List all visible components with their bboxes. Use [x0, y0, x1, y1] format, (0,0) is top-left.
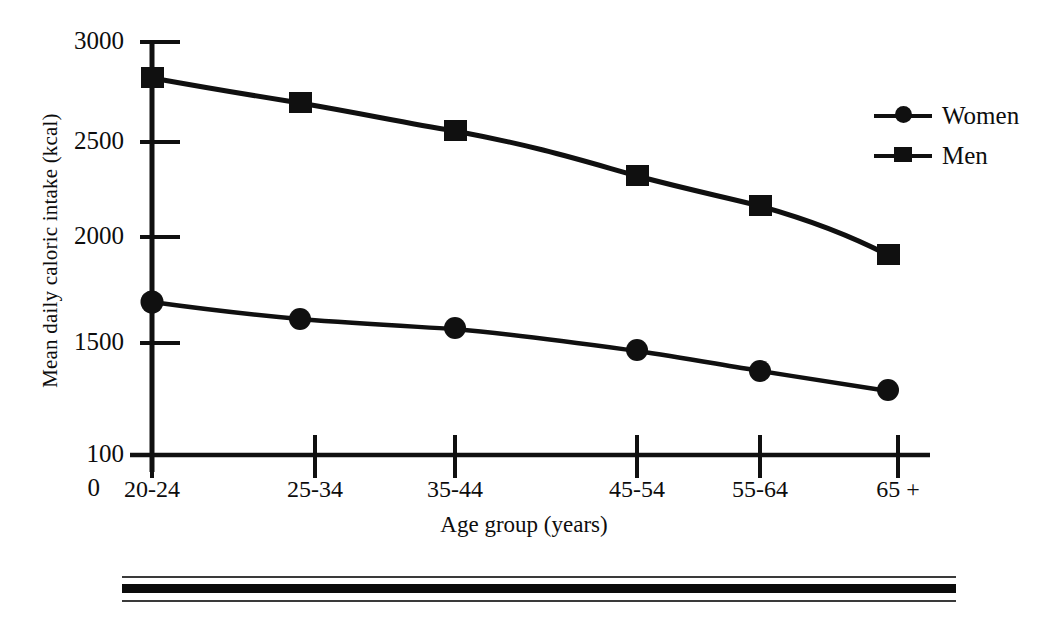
legend-label-women: Women: [934, 102, 1019, 130]
data-point-men-45-54: [626, 165, 649, 186]
data-point-women-65plus: [877, 379, 899, 401]
legend-label-men: Men: [934, 142, 988, 170]
legend-marker-circle-icon: [872, 104, 934, 128]
data-point-women-45-54: [626, 339, 648, 361]
x-tick-label-35-44: 35-44: [380, 476, 530, 502]
legend-marker-square-icon: [872, 144, 934, 168]
data-point-men-35-44: [444, 120, 467, 141]
x-tick-label-55-64: 55-64: [685, 476, 835, 502]
chart-figure: Mean daily caloric intake (kcal) 3000 25…: [0, 0, 1048, 620]
legend-item-women: Women: [872, 96, 1042, 136]
chart-legend: Women Men: [872, 96, 1042, 176]
data-point-men-20-24: [141, 67, 164, 88]
series-line-women: [152, 302, 888, 391]
x-tick-label-65plus: 65 +: [823, 476, 973, 502]
series-line-men: [152, 78, 888, 255]
x-axis-title: Age group (years): [0, 512, 1048, 538]
legend-item-men: Men: [872, 136, 1042, 176]
x-tick-label-20-24: 20-24: [77, 476, 227, 502]
x-tick-label-25-34: 25-34: [240, 476, 390, 502]
data-point-men-65plus: [877, 244, 900, 265]
data-point-women-20-24: [141, 291, 164, 314]
data-point-women-55-64: [749, 360, 771, 382]
footer-rule-top: [122, 576, 956, 578]
footer-rule-bottom: [122, 600, 956, 602]
data-point-men-25-34: [289, 92, 312, 113]
data-point-women-25-34: [289, 308, 311, 330]
data-point-men-55-64: [749, 195, 772, 216]
footer-rule-middle: [122, 584, 956, 593]
data-point-women-35-44: [444, 317, 466, 339]
